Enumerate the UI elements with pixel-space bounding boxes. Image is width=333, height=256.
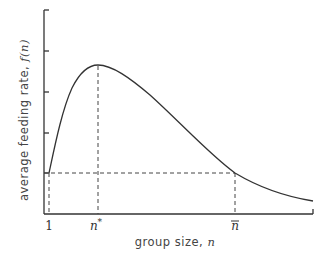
- x-tick-label-nbar: n: [231, 219, 239, 233]
- x-axis-label-var: n: [207, 235, 215, 249]
- y-axis-label: average feeding rate, f(n): [17, 39, 31, 201]
- x-tick-label-nstar: n*: [90, 217, 103, 233]
- x-tick-label-1: 1: [45, 219, 53, 233]
- y-axis-label-var: f(n): [17, 39, 31, 63]
- y-axis-label-text: average feeding rate,: [17, 62, 31, 201]
- feeding-rate-curve: [49, 65, 313, 201]
- nstar-sup: *: [98, 217, 103, 227]
- x-axis-label-text: group size,: [135, 235, 208, 249]
- nstar-base: n: [90, 219, 98, 233]
- axes: [44, 10, 313, 214]
- x-axis-label: group size, n: [135, 235, 216, 249]
- feeding-rate-chart: 1 n* n group size, n average feeding rat…: [0, 0, 333, 256]
- guide-lines: [44, 66, 235, 214]
